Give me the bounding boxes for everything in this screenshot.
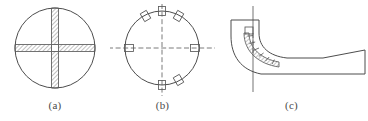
caption-b: (b) xyxy=(110,99,215,111)
outlet-taper-edge-c xyxy=(323,50,365,58)
rim-slot xyxy=(173,74,184,85)
technical-figure-sheet: (a) (b) (c) xyxy=(0,0,368,121)
rim-slot xyxy=(173,10,184,21)
elbow-inner-wall-c xyxy=(259,20,323,58)
caption-a: (a) xyxy=(0,99,110,111)
curved-vane-c xyxy=(244,33,279,67)
rim-slot xyxy=(140,10,151,21)
figure-panel-b xyxy=(110,0,215,99)
figure-panel-c xyxy=(215,0,368,99)
figure-panel-a xyxy=(0,0,110,99)
rib-junction-a xyxy=(52,45,59,52)
caption-c: (c) xyxy=(215,99,368,111)
